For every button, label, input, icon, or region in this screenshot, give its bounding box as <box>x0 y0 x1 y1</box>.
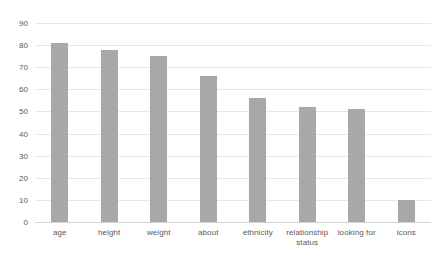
x-axis-tick-label: looking for <box>332 228 382 238</box>
x-axis-tick-label: height <box>85 228 135 238</box>
bar <box>101 50 118 222</box>
x-axis-tick-label: about <box>184 228 234 238</box>
x-axis-tick-label: ethnicity <box>233 228 283 238</box>
y-axis-tick-label: 80 <box>19 41 28 50</box>
y-axis-tick-label: 10 <box>19 195 28 204</box>
bar <box>348 109 365 222</box>
bars-layer <box>35 23 431 222</box>
x-axis-tick-label-line: status <box>283 238 333 248</box>
y-axis-tick-label: 60 <box>19 85 28 94</box>
bar <box>150 56 167 222</box>
bar <box>51 43 68 222</box>
x-axis: ageheightweightaboutethnicityrelationshi… <box>35 224 431 268</box>
y-axis: 0102030405060708090 <box>0 0 35 270</box>
bar-chart: 0102030405060708090 ageheightweightabout… <box>0 0 439 270</box>
y-axis-tick-label: 70 <box>19 63 28 72</box>
y-axis-tick-label: 30 <box>19 151 28 160</box>
x-axis-tick-label-line: weight <box>134 228 184 238</box>
x-axis-tick-label-line: relationship <box>283 228 333 238</box>
x-axis-tick-label-line: about <box>184 228 234 238</box>
bar <box>200 76 217 222</box>
bar <box>398 200 415 222</box>
x-axis-tick-label-line: icons <box>382 228 432 238</box>
x-axis-tick-label: age <box>35 228 85 238</box>
x-axis-tick-label: relationshipstatus <box>283 228 333 248</box>
x-axis-tick-label-line: age <box>35 228 85 238</box>
bar <box>249 98 266 222</box>
y-axis-tick-label: 50 <box>19 107 28 116</box>
bar <box>299 107 316 222</box>
x-axis-tick-label: weight <box>134 228 184 238</box>
y-axis-tick-label: 40 <box>19 129 28 138</box>
x-axis-tick-label: icons <box>382 228 432 238</box>
y-axis-tick-label: 90 <box>19 19 28 28</box>
x-axis-tick-label-line: ethnicity <box>233 228 283 238</box>
x-axis-tick-label-line: looking for <box>332 228 382 238</box>
y-axis-tick-label: 0 <box>23 218 28 227</box>
y-axis-tick-label: 20 <box>19 173 28 182</box>
axis-baseline <box>35 222 431 223</box>
x-axis-tick-label-line: height <box>85 228 135 238</box>
